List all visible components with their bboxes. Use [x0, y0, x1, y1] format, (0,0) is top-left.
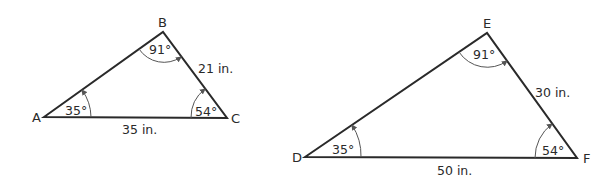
vertex-label-e: E — [483, 16, 491, 31]
angle-label-c: 54° — [195, 104, 217, 119]
vertex-label-a: A — [32, 110, 41, 125]
side-label-df: 50 in. — [437, 163, 472, 178]
vertex-label-d: D — [292, 150, 302, 165]
side-label-ac: 35 in. — [122, 122, 157, 137]
triangle-def: D E F 35° 91° 54° 30 in. 50 in. — [292, 16, 590, 178]
triangle-abc: A B C 35° 91° 54° 21 in. 35 in. — [32, 15, 240, 137]
vertex-label-f: F — [583, 151, 590, 166]
side-label-ef: 30 in. — [535, 85, 570, 100]
similar-triangles-diagram: A B C 35° 91° 54° 21 in. 35 in. D E F 35… — [0, 0, 614, 178]
angle-label-b: 91° — [149, 42, 171, 57]
vertex-label-b: B — [158, 15, 167, 30]
angle-label-d: 35° — [332, 142, 354, 157]
angle-label-e: 91° — [473, 47, 495, 62]
angle-label-f: 54° — [542, 143, 564, 158]
vertex-label-c: C — [231, 111, 240, 126]
angle-label-a: 35° — [65, 103, 87, 118]
side-label-bc: 21 in. — [198, 61, 233, 76]
